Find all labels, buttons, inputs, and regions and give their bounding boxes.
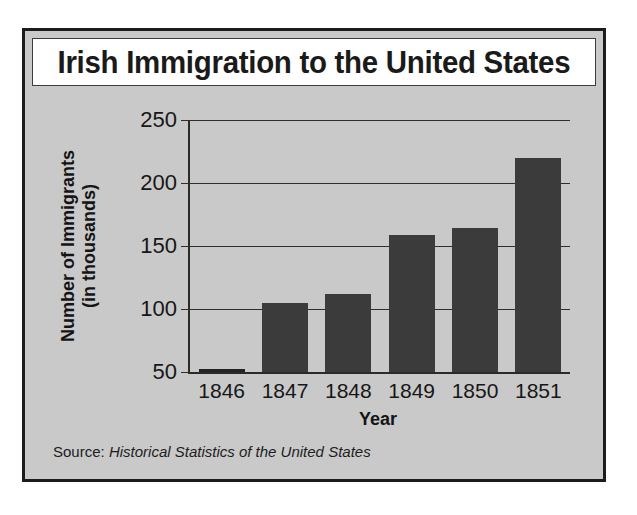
y-axis-title: Number of Immigrants (in thousands) bbox=[51, 120, 107, 372]
gridline bbox=[190, 309, 570, 310]
chart-title-band: Irish Immigration to the United States bbox=[32, 38, 596, 86]
chart-figure: Irish Immigration to the United States 2… bbox=[22, 28, 606, 482]
source-note: Source: Historical Statistics of the Uni… bbox=[53, 443, 371, 460]
bar-1847 bbox=[262, 303, 308, 372]
y-axis-tick-label: 200 bbox=[140, 170, 177, 196]
bar-1848 bbox=[325, 294, 371, 372]
x-axis-tick-label: 1848 bbox=[325, 379, 372, 403]
bar-1849 bbox=[389, 235, 435, 372]
source-title: Historical Statistics of the United Stat… bbox=[109, 443, 371, 460]
plot-area: 25020015010050 184618471848184918501851 bbox=[188, 120, 570, 374]
y-axis-tick-label: 150 bbox=[140, 233, 177, 259]
y-axis-tick bbox=[181, 246, 190, 247]
y-axis-tick-label: 100 bbox=[140, 296, 177, 322]
x-axis-tick-label: 1849 bbox=[388, 379, 435, 403]
x-axis-title: Year bbox=[188, 409, 568, 430]
source-prefix: Source: bbox=[53, 443, 105, 460]
x-axis-tick-label: 1846 bbox=[198, 379, 245, 403]
y-axis-tick-label: 50 bbox=[153, 359, 177, 385]
y-axis-tick bbox=[181, 372, 190, 373]
y-axis-title-line2: (in thousands) bbox=[79, 184, 100, 308]
page-title: Irish Immigration to the United States bbox=[58, 47, 571, 78]
y-axis-tick-label: 250 bbox=[140, 107, 177, 133]
y-axis-tick bbox=[181, 183, 190, 184]
gridline bbox=[190, 183, 570, 184]
bar-1850 bbox=[452, 228, 498, 372]
x-axis-tick-label: 1851 bbox=[515, 379, 562, 403]
gridline bbox=[190, 246, 570, 247]
bar-1846 bbox=[199, 369, 245, 372]
y-axis-tick bbox=[181, 120, 190, 121]
x-axis-tick-label: 1847 bbox=[262, 379, 309, 403]
y-axis-tick bbox=[181, 309, 190, 310]
y-axis-title-line1: Number of Immigrants bbox=[58, 150, 79, 342]
gridline bbox=[190, 120, 570, 121]
x-axis-tick-label: 1850 bbox=[452, 379, 499, 403]
bar-1851 bbox=[515, 158, 561, 372]
